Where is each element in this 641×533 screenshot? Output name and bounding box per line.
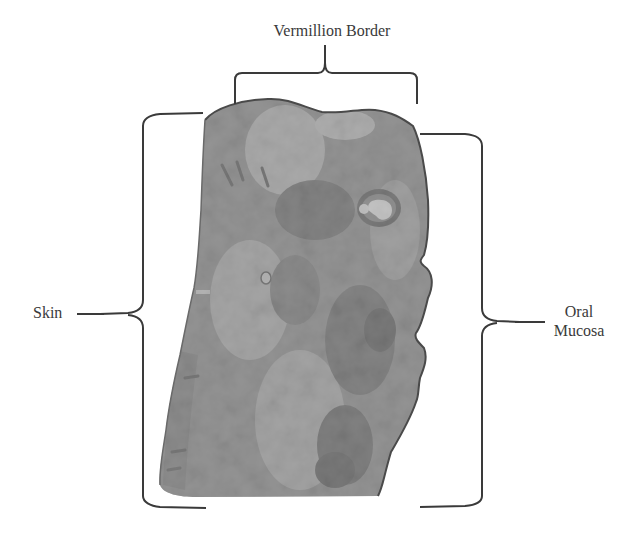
lip-section-diagram: Vermillion Border Skin Oral Mucosa	[0, 0, 641, 533]
oral-mucosa-label-line2: Mucosa	[545, 321, 613, 340]
tissue-section	[150, 95, 440, 505]
vermillion-border-label: Vermillion Border	[257, 21, 407, 40]
oral-mucosa-label: Oral Mucosa	[545, 302, 613, 340]
oral-mucosa-label-line1: Oral	[545, 302, 613, 321]
diagram-graphics	[0, 0, 641, 533]
bracket-top	[235, 45, 417, 104]
bracket-right	[420, 134, 520, 507]
skin-label: Skin	[33, 303, 62, 322]
